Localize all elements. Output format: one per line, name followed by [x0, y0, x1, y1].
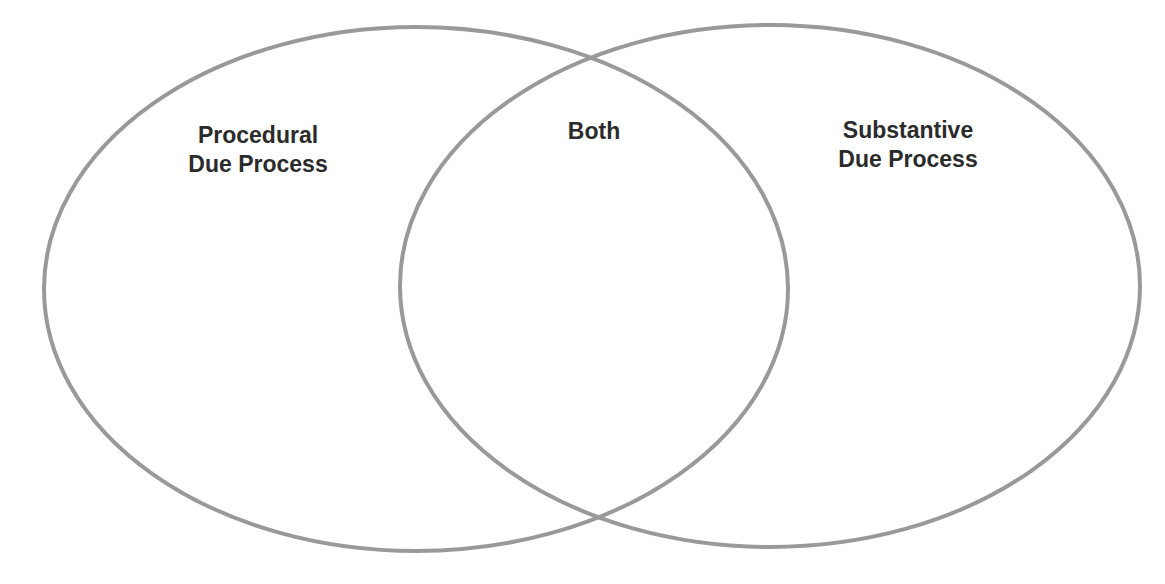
procedural-due-process-ellipse	[44, 27, 788, 551]
substantive-label-line-2: Due Process	[838, 145, 977, 174]
venn-diagram	[0, 0, 1165, 584]
substantive-label-line-1: Substantive	[838, 116, 977, 145]
procedural-label-line-1: Procedural	[188, 121, 327, 150]
both-label: Both	[568, 117, 620, 146]
procedural-label-line-2: Due Process	[188, 150, 327, 179]
substantive-due-process-ellipse	[400, 25, 1140, 547]
substantive-due-process-label: Substantive Due Process	[838, 116, 977, 174]
intersection-label: Both	[568, 117, 620, 146]
procedural-due-process-label: Procedural Due Process	[188, 121, 327, 179]
